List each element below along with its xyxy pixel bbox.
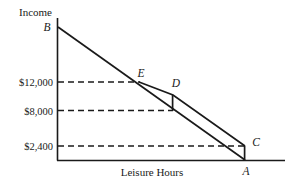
point-label-e: E bbox=[136, 67, 144, 79]
guide-lines-group bbox=[58, 82, 245, 146]
income-leisure-budget-figure: Income Leisure Hours $12,000 $8,000 $2,4… bbox=[0, 0, 294, 182]
point-label-c: C bbox=[252, 136, 260, 148]
welfare-segment-e-d-c bbox=[139, 82, 245, 146]
axes-group bbox=[57, 18, 285, 161]
point-labels-group: B E D C A bbox=[43, 21, 260, 177]
point-label-d: D bbox=[171, 77, 181, 89]
point-label-b: B bbox=[43, 21, 50, 33]
point-label-a: A bbox=[241, 165, 250, 177]
tick-label-12000: $12,000 bbox=[19, 77, 53, 88]
x-axis-title: Leisure Hours bbox=[121, 166, 184, 178]
figure-canvas: Income Leisure Hours $12,000 $8,000 $2,4… bbox=[0, 0, 294, 182]
tick-label-2400: $2,400 bbox=[24, 141, 53, 152]
tick-label-8000: $8,000 bbox=[24, 106, 53, 117]
tick-labels-group: $12,000 $8,000 $2,400 bbox=[19, 77, 53, 152]
y-axis-title: Income bbox=[19, 6, 52, 18]
budget-line-b-a bbox=[58, 27, 245, 160]
budget-line-group bbox=[58, 27, 245, 160]
